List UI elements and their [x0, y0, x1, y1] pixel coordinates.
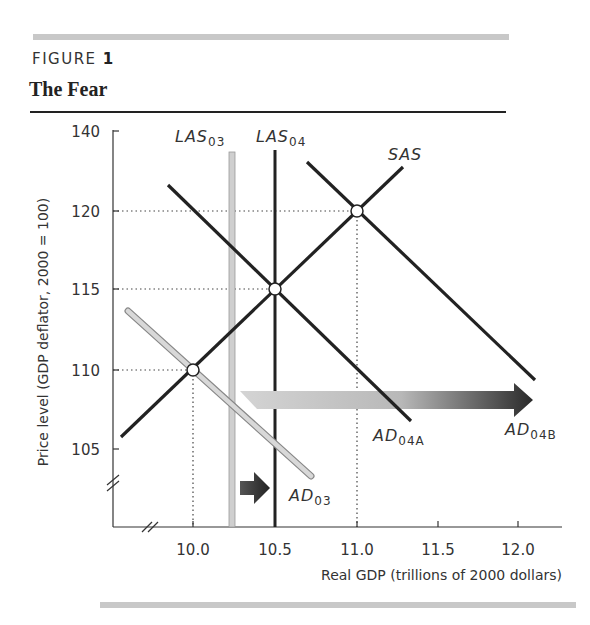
- ad04a-label: AD04A: [372, 426, 425, 448]
- x-tick-11-5: 11.5: [421, 541, 454, 559]
- x-tick-12-0: 12.0: [501, 541, 534, 559]
- equilibrium-point-a: [187, 364, 199, 376]
- bottom-decorative-bar: [100, 602, 576, 608]
- y-axis-label: Price level (GDP deflator, 2000 = 100): [35, 198, 51, 466]
- x-tick-labels: 10.0 10.5 11.0 11.5 12.0: [176, 541, 534, 559]
- ad03-label: AD03: [288, 486, 332, 508]
- x-tick-10-5: 10.5: [258, 541, 291, 559]
- y-tick-140: 140: [71, 123, 100, 141]
- x-axis-label: Real GDP (trillions of 2000 dollars): [321, 567, 562, 583]
- ad04b-curve: [307, 162, 535, 380]
- x-tick-11-0: 11.0: [340, 541, 373, 559]
- ad-shift-arrow: [240, 383, 533, 417]
- las03-label: LAS03: [175, 127, 225, 149]
- y-tick-120: 120: [71, 203, 100, 221]
- sas-label: SAS: [388, 145, 422, 164]
- ad04a-curve: [168, 185, 411, 421]
- las03-curve: [229, 152, 235, 527]
- y-tick-labels: 140 120 115 110 105: [71, 123, 100, 459]
- y-tick-105: 105: [71, 441, 100, 459]
- chart: 140 120 115 110 105 10.0 10.5 11.0 11.5 …: [0, 0, 590, 625]
- las04-label: LAS04: [256, 127, 306, 149]
- ad04b-label: AD04B: [504, 420, 557, 442]
- equilibrium-point-b: [269, 283, 281, 295]
- y-tick-115: 115: [71, 281, 100, 299]
- las-shift-arrow: [240, 472, 270, 504]
- x-tick-10-0: 10.0: [176, 541, 209, 559]
- y-tick-110: 110: [71, 362, 100, 380]
- equilibrium-point-c: [351, 205, 363, 217]
